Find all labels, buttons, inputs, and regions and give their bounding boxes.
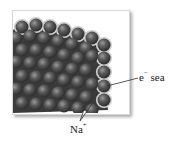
sphere-grid (10, 18, 112, 117)
sodium-ion-symbol: Na (70, 123, 83, 135)
sodium-ion-label: Na+ (70, 122, 87, 135)
electron-sea-charge: − (144, 69, 148, 77)
electron-sea-label: e− sea (139, 70, 165, 83)
sodium-ion-charge: + (83, 121, 87, 129)
electron-sea-text: sea (151, 71, 165, 83)
electron-sea-leader-line (107, 78, 138, 86)
